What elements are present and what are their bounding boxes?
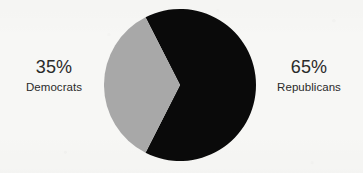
pie-svg	[104, 9, 256, 161]
slice-label-republicans: 65% Republicans	[258, 58, 360, 94]
democrats-percent-value: 35%	[4, 58, 104, 76]
republicans-percent-value: 65%	[258, 58, 360, 76]
slice-label-democrats: 35% Democrats	[4, 58, 104, 94]
democrats-party-name: Democrats	[4, 82, 104, 94]
pie-graphic	[104, 9, 256, 161]
pie-chart-figure: 35% Democrats 65% Republicans	[0, 0, 363, 173]
republicans-party-name: Republicans	[258, 82, 360, 94]
